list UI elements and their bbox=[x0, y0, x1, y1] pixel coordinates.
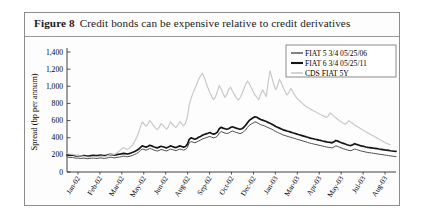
chart-legend: FIAT 5 3/4 05/25/06FIAT 6 3/4 05/25/11CD… bbox=[286, 45, 396, 78]
legend-label: FIAT 6 3/4 05/25/11 bbox=[305, 59, 367, 68]
x-tick-label: Mar-02 bbox=[107, 174, 126, 198]
y-tick-label: 200 bbox=[52, 150, 64, 159]
x-tick-label: Sep-02 bbox=[195, 174, 214, 197]
figure-label: Figure 8 bbox=[34, 17, 75, 29]
x-tick-label: Jun-02 bbox=[152, 174, 170, 196]
x-tick-label: Dec-02 bbox=[238, 174, 257, 197]
legend-label: CDS FIAT 5Y bbox=[305, 69, 349, 78]
x-tick-label: Oct-02 bbox=[217, 174, 236, 196]
y-axis-label: Spread (bp per annum) bbox=[30, 73, 39, 150]
x-tick-label: Jan-03 bbox=[261, 174, 279, 196]
x-tick-label: Apr-03 bbox=[305, 174, 324, 197]
legend-label: FIAT 5 3/4 05/25/06 bbox=[305, 49, 367, 58]
x-tick-label: Mar-03 bbox=[282, 174, 301, 198]
y-tick-label: 600 bbox=[52, 116, 64, 125]
series-group bbox=[67, 71, 396, 159]
x-axis-ticks: Jan-02Feb-02Mar-02May-02Jun-02Aug-02Sep-… bbox=[64, 172, 389, 199]
y-tick-label: 1,200 bbox=[46, 65, 63, 74]
y-tick-label: 0 bbox=[59, 168, 63, 177]
x-tick-label: May-03 bbox=[325, 174, 345, 199]
x-tick-label: Aug-03 bbox=[370, 174, 390, 198]
figure-caption: Credit bonds can be expensive relative t… bbox=[80, 17, 351, 29]
y-tick-label: 1,400 bbox=[46, 48, 63, 57]
x-tick-label: May-02 bbox=[128, 174, 148, 199]
x-tick-label: Jan-02 bbox=[64, 174, 82, 196]
y-tick-label: 1,000 bbox=[46, 82, 63, 91]
figure-title: Figure 8Credit bonds can be expensive re… bbox=[34, 17, 394, 33]
line-chart: 02004006008001,0001,2001,400 Jan-02Feb-0… bbox=[24, 36, 400, 206]
series-line bbox=[67, 71, 390, 157]
x-tick-label: Aug-02 bbox=[172, 174, 192, 198]
x-tick-label: Feb-02 bbox=[85, 174, 104, 197]
y-tick-label: 400 bbox=[52, 133, 64, 142]
x-tick-label: Jul-03 bbox=[350, 174, 368, 195]
y-tick-label: 800 bbox=[52, 99, 64, 108]
chart-plot-area: 02004006008001,0001,2001,400 Jan-02Feb-0… bbox=[24, 36, 400, 206]
